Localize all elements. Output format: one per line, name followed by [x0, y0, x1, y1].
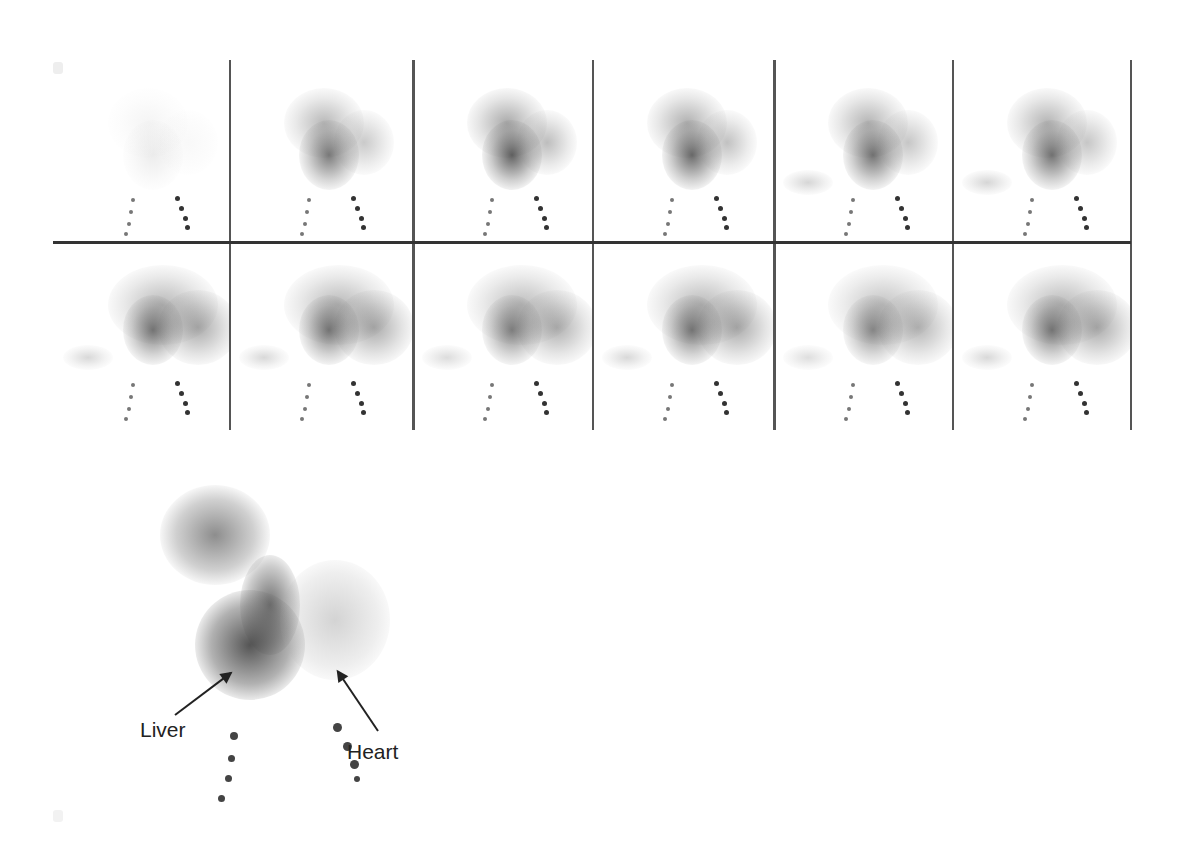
- marker-dot: [895, 381, 900, 386]
- marker-dot: [544, 410, 549, 415]
- tracer-uptake-region: [239, 345, 289, 370]
- scan-frame: [773, 60, 952, 242]
- marker-dot: [1084, 225, 1089, 230]
- tracer-uptake-region: [334, 290, 412, 365]
- heart-region: [280, 560, 390, 680]
- marker-dot: [714, 381, 719, 386]
- marker-dot: [847, 407, 851, 411]
- marker-dot: [724, 410, 729, 415]
- scan-frame: [229, 245, 412, 430]
- grid-divider: [53, 241, 1131, 244]
- tracer-uptake-region: [962, 170, 1012, 195]
- grid-divider: [1130, 60, 1132, 430]
- marker-dot: [354, 776, 360, 782]
- marker-dot: [847, 222, 851, 226]
- marker-dot: [844, 417, 848, 421]
- tracer-uptake-region: [1057, 290, 1130, 365]
- marker-dot: [483, 417, 487, 421]
- marker-dot: [486, 222, 490, 226]
- marker-dot: [355, 391, 360, 396]
- marker-dot: [905, 410, 910, 415]
- marker-dot: [1082, 401, 1087, 406]
- marker-dot: [129, 395, 133, 399]
- marker-dot: [1030, 383, 1034, 387]
- grid-divider: [773, 60, 776, 430]
- marker-dot: [490, 383, 494, 387]
- marker-dot: [486, 407, 490, 411]
- liver-label: Liver: [140, 718, 186, 742]
- marker-dot: [175, 196, 180, 201]
- tracer-uptake-region: [517, 110, 577, 175]
- marker-dot: [668, 210, 672, 214]
- marker-dot: [903, 401, 908, 406]
- scan-frame: [53, 245, 229, 430]
- tracer-uptake-region: [334, 110, 394, 175]
- tracer-uptake-region: [783, 345, 833, 370]
- marker-dot: [538, 391, 543, 396]
- marker-dot: [663, 417, 667, 421]
- marker-dot: [488, 210, 492, 214]
- tracer-uptake-region: [517, 290, 592, 365]
- marker-dot: [127, 222, 131, 226]
- scan-frame: [229, 60, 412, 242]
- marker-dot: [351, 381, 356, 386]
- marker-dot: [300, 417, 304, 421]
- marker-dot: [718, 391, 723, 396]
- tracer-uptake-region: [697, 290, 773, 365]
- marker-dot: [230, 732, 238, 740]
- marker-dot: [670, 198, 674, 202]
- tracer-uptake-region: [422, 345, 472, 370]
- marker-dot: [1074, 196, 1079, 201]
- marker-dot: [668, 395, 672, 399]
- marker-dot: [185, 410, 190, 415]
- scan-frame: [952, 245, 1130, 430]
- marker-dot: [849, 210, 853, 214]
- marker-dot: [129, 210, 133, 214]
- tracer-uptake-region: [1057, 110, 1117, 175]
- marker-dot: [670, 383, 674, 387]
- marker-dot: [724, 225, 729, 230]
- marker-dot: [1074, 381, 1079, 386]
- marker-dot: [488, 395, 492, 399]
- tracer-uptake-region: [602, 345, 652, 370]
- marker-dot: [1084, 410, 1089, 415]
- marker-dot: [1082, 216, 1087, 221]
- tracer-uptake-region: [878, 110, 938, 175]
- grid-divider: [592, 60, 594, 430]
- marker-dot: [851, 383, 855, 387]
- marker-dot: [1028, 395, 1032, 399]
- marker-dot: [538, 206, 543, 211]
- marker-dot: [903, 216, 908, 221]
- marker-dot: [666, 407, 670, 411]
- marker-dot: [1023, 417, 1027, 421]
- marker-dot: [124, 417, 128, 421]
- scan-frame: [53, 60, 229, 242]
- marker-dot: [895, 196, 900, 201]
- marker-dot: [1078, 206, 1083, 211]
- marker-dot: [300, 232, 304, 236]
- marker-dot: [851, 198, 855, 202]
- tracer-uptake-region: [158, 290, 229, 365]
- tracer-uptake-region: [697, 110, 757, 175]
- marker-dot: [722, 401, 727, 406]
- grid-divider: [229, 60, 231, 430]
- marker-dot: [1023, 232, 1027, 236]
- scan-frame: [592, 245, 773, 430]
- marker-dot: [218, 795, 225, 802]
- marker-dot: [225, 775, 232, 782]
- frame-grid: [53, 60, 1131, 430]
- marker-dot: [542, 216, 547, 221]
- marker-dot: [183, 401, 188, 406]
- marker-dot: [1078, 391, 1083, 396]
- marker-dot: [1026, 222, 1030, 226]
- marker-dot: [534, 381, 539, 386]
- tracer-uptake-region: [158, 110, 218, 175]
- marker-dot: [131, 198, 135, 202]
- marker-dot: [305, 395, 309, 399]
- marker-dot: [131, 383, 135, 387]
- heart-label: Heart: [347, 740, 398, 764]
- marker-dot: [307, 198, 311, 202]
- marker-dot: [179, 391, 184, 396]
- scan-frame: [592, 60, 773, 242]
- marker-dot: [361, 410, 366, 415]
